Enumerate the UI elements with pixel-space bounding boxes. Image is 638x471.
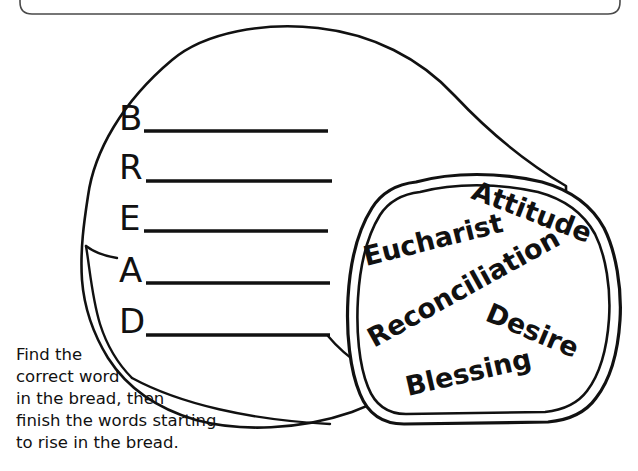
instruction-line-4: finish the words starting bbox=[16, 411, 216, 430]
instruction-line-5: to rise in the bread. bbox=[16, 433, 179, 452]
page-frame-border bbox=[0, 0, 620, 14]
acrostic-letter-d: D bbox=[119, 301, 145, 341]
acrostic-letter-b: B bbox=[119, 98, 142, 138]
worksheet-illustration: B R E A D Attitude Eucharist Reconciliat… bbox=[0, 0, 638, 471]
acrostic-letter-r: R bbox=[119, 147, 143, 187]
worksheet-page: B R E A D Attitude Eucharist Reconciliat… bbox=[0, 0, 638, 471]
acrostic-letter-a: A bbox=[119, 250, 142, 290]
instruction-line-2: correct word bbox=[16, 367, 120, 386]
instruction-line-1: Find the bbox=[16, 345, 82, 364]
acrostic-letter-e: E bbox=[119, 198, 140, 238]
instruction-line-3: in the bread, then bbox=[16, 389, 164, 408]
